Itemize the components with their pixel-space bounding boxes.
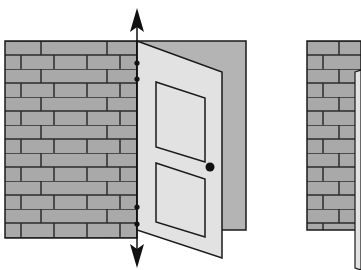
hinge-dot xyxy=(134,221,139,226)
right-brick-wall xyxy=(307,41,361,270)
hinge-dot xyxy=(134,76,139,81)
left-brick-wall xyxy=(5,41,137,238)
door-hinge-illustration xyxy=(0,0,361,270)
right-door-edge xyxy=(355,70,361,270)
hinge-dot xyxy=(134,204,139,209)
door-knob-icon xyxy=(206,163,215,172)
hinge-dot xyxy=(134,60,139,65)
open-door xyxy=(137,41,222,258)
